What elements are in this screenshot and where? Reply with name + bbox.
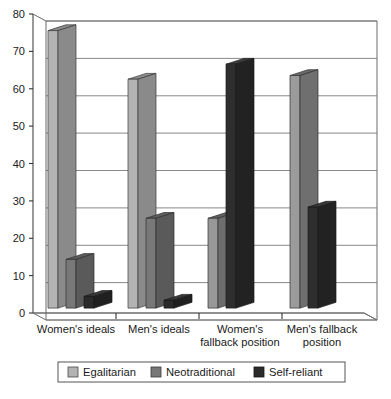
- y-tick-60: 60: [13, 83, 25, 95]
- x-label-mens-fallback-line2: position: [303, 336, 342, 348]
- x-label-mens-fallback-line1: Men's fallback: [287, 323, 358, 335]
- y-tick-70: 70: [13, 45, 25, 57]
- x-label-mens-ideals: Men's ideals: [128, 323, 190, 335]
- y-tick-80: 80: [13, 8, 25, 20]
- bar-mens-ideals-neotraditional: [146, 213, 174, 309]
- legend-label-self-reliant: Self-reliant: [269, 366, 323, 378]
- legend-swatch-neotraditional: [151, 367, 161, 377]
- bar-womens-fallback-self-reliant: [226, 58, 254, 308]
- legend-swatch-self-reliant: [254, 367, 264, 377]
- x-category-labels: Women's ideals Men's ideals Women's fall…: [37, 323, 358, 348]
- y-tick-20: 20: [13, 232, 25, 244]
- legend-label-neotraditional: Neotraditional: [166, 366, 235, 378]
- legend-swatch-egalitarian: [68, 367, 78, 377]
- legend-label-egalitarian: Egalitarian: [83, 366, 136, 378]
- x-label-womens-fallback-line2: fallback position: [200, 336, 280, 348]
- y-tick-0: 0: [19, 307, 25, 319]
- bar-mens-fallback-self-reliant: [308, 201, 336, 308]
- bar-chart: 80 70 60 50 40 30 20 10 0: [0, 0, 391, 399]
- y-tick-40: 40: [13, 158, 25, 170]
- x-label-womens-fallback-line1: Women's: [217, 323, 263, 335]
- y-tick-10: 10: [13, 270, 25, 282]
- chart-canvas: 80 70 60 50 40 30 20 10 0: [0, 0, 391, 399]
- legend-item-egalitarian[interactable]: Egalitarian: [68, 366, 136, 378]
- y-tick-50: 50: [13, 120, 25, 132]
- legend: Egalitarian Neotraditional Self-reliant: [58, 362, 345, 382]
- x-label-womens-ideals: Women's ideals: [37, 323, 116, 335]
- y-axis: 80 70 60 50 40 30 20 10 0: [13, 8, 33, 319]
- y-tick-30: 30: [13, 195, 25, 207]
